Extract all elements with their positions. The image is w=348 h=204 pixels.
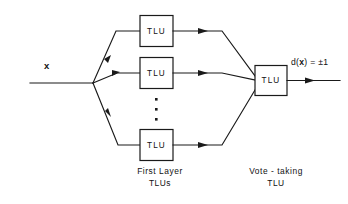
output-arrow bbox=[305, 78, 315, 84]
fanout-wire-bottom bbox=[93, 83, 140, 145]
tlu-network-diagram: TLU TLU TLU TLU bbox=[0, 0, 348, 204]
ellipsis-dot-2 bbox=[155, 108, 158, 111]
vertical-ellipsis-group bbox=[155, 98, 158, 121]
converge-wire-bottom bbox=[173, 90, 255, 145]
converge-arrow-bottom bbox=[198, 142, 208, 148]
caption-first-layer-line1: First Layer bbox=[108, 166, 212, 178]
converge-wire-top bbox=[173, 31, 255, 76]
caption-first-layer: First Layer TLUs bbox=[108, 166, 212, 189]
converge-wire-group bbox=[173, 28, 255, 148]
first-layer-tlu-n-label: TLU bbox=[147, 141, 166, 150]
fanout-wire-middle bbox=[93, 73, 140, 83]
output-wire-group bbox=[287, 78, 340, 84]
ellipsis-dot-3 bbox=[155, 118, 158, 121]
caption-vote-taking-line1: Vote - taking bbox=[224, 166, 328, 178]
converge-arrow-middle bbox=[198, 70, 208, 76]
vote-taking-tlu-label: TLU bbox=[262, 76, 281, 85]
caption-first-layer-line2: TLUs bbox=[108, 178, 212, 190]
fanout-branch-group bbox=[93, 31, 140, 145]
fanout-wire-top bbox=[93, 31, 140, 83]
output-label-suffix: ) = ±1 bbox=[304, 57, 328, 67]
first-layer-tlu-1-label: TLU bbox=[147, 27, 166, 36]
caption-vote-taking-line2: TLU bbox=[224, 178, 328, 190]
output-label-dx: d(x) = ±1 bbox=[291, 57, 328, 67]
ellipsis-dot-1 bbox=[155, 98, 158, 101]
first-layer-group: TLU TLU TLU bbox=[140, 16, 173, 161]
output-label-prefix: d( bbox=[291, 57, 299, 67]
input-label-x: x bbox=[44, 60, 49, 71]
converge-wire-middle bbox=[173, 73, 255, 80]
caption-vote-taking: Vote - taking TLU bbox=[224, 166, 328, 189]
first-layer-tlu-2-label: TLU bbox=[147, 69, 166, 78]
vote-layer-group: TLU bbox=[255, 66, 287, 96]
converge-arrow-top bbox=[198, 28, 208, 34]
